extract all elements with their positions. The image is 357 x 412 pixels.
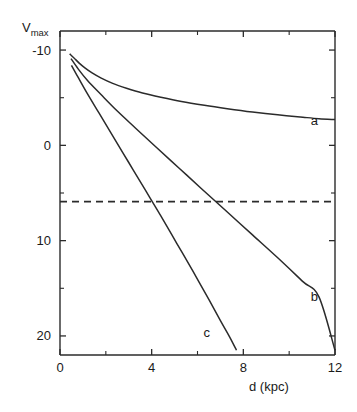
y-axis-title: Vmax: [22, 20, 49, 38]
curve-b: [71, 59, 335, 351]
curve-label-b: b: [311, 289, 318, 304]
y-tick-label: 10: [37, 233, 51, 248]
y-tick-labels: -1001020: [32, 43, 51, 344]
tick-marks: [60, 31, 335, 355]
y-tick-label: 0: [44, 138, 51, 153]
curve-a: [70, 54, 335, 120]
figure-container: 04812 -1001020 abc Vmax d (kpc): [0, 0, 357, 412]
y-axis-title-subscript: max: [31, 27, 49, 38]
chart-svg: 04812 -1001020 abc Vmax d (kpc): [0, 0, 357, 412]
curve-label-a: a: [311, 113, 319, 128]
curve-c: [71, 65, 236, 350]
curve-labels: abc: [203, 113, 318, 340]
x-tick-label: 12: [328, 360, 342, 375]
x-axis-title: d (kpc): [249, 379, 289, 394]
y-tick-label: 20: [37, 328, 51, 343]
x-tick-label: 8: [240, 360, 247, 375]
curve-label-c: c: [203, 325, 210, 340]
x-tick-label: 4: [148, 360, 155, 375]
x-tick-labels: 04812: [56, 360, 342, 375]
axes-frame: [60, 31, 335, 355]
x-tick-label: 0: [56, 360, 63, 375]
y-tick-label: -10: [32, 43, 51, 58]
y-axis-title-main: V: [22, 20, 31, 35]
